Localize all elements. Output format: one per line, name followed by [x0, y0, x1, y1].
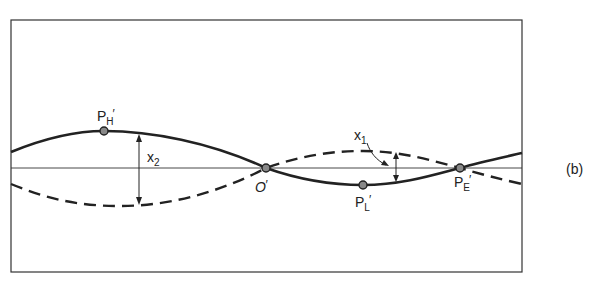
- label-x2: x2: [147, 150, 160, 164]
- label-ph: PH′: [97, 109, 115, 123]
- label-ph-main: P: [97, 108, 106, 124]
- label-x1-sub: 1: [361, 135, 367, 146]
- label-x2-sub: 2: [154, 157, 160, 168]
- panel-label: (b): [566, 162, 583, 176]
- label-pe-prime: ′: [469, 173, 471, 187]
- diagram-canvas: [0, 0, 595, 282]
- solid-curve: [11, 131, 522, 185]
- label-pe-main: P: [454, 174, 463, 190]
- label-x2-main: x: [147, 149, 154, 165]
- x1-arrow: [393, 152, 399, 182]
- x1-leader-arrowhead: [381, 160, 389, 166]
- frame: [11, 20, 522, 272]
- point-pl: [359, 181, 367, 189]
- x2-arrow: [136, 134, 142, 205]
- label-x1-main: x: [354, 127, 361, 143]
- label-pl-prime: ′: [369, 193, 371, 207]
- point-o: [262, 164, 270, 172]
- label-o: O′: [255, 180, 267, 194]
- point-ph: [100, 127, 108, 135]
- label-ph-prime: ′: [113, 107, 115, 121]
- label-x1: x1: [354, 128, 367, 142]
- point-pe: [456, 164, 464, 172]
- label-pl: PL′: [355, 195, 371, 209]
- label-pl-main: P: [355, 194, 364, 210]
- label-o-prime: ′: [265, 178, 267, 192]
- label-pe: PE′: [454, 175, 471, 189]
